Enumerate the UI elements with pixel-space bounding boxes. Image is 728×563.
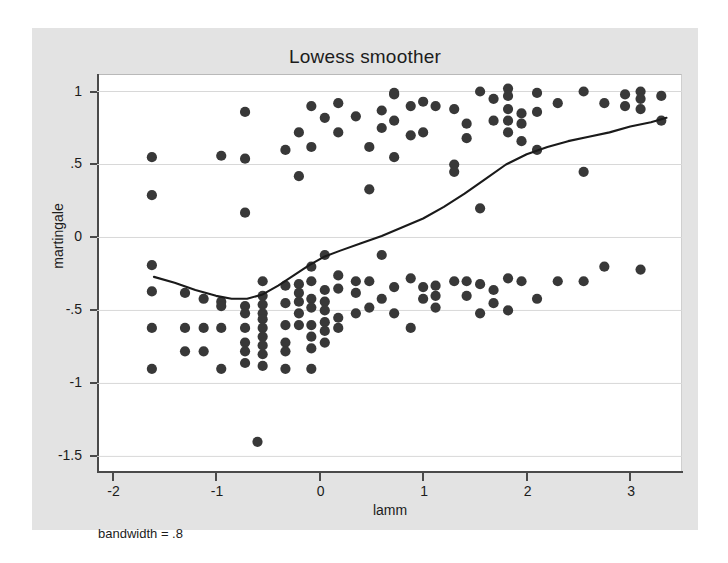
y-tick — [90, 309, 98, 311]
x-tick — [422, 473, 424, 481]
plot-area — [97, 74, 682, 471]
x-tick — [319, 473, 321, 481]
x-axis-label: lamm — [97, 502, 683, 518]
y-tick-label: -1 — [34, 374, 82, 390]
x-tick-label: 3 — [611, 483, 651, 499]
x-axis-line — [97, 471, 683, 473]
y-tick — [90, 163, 98, 165]
y-tick — [90, 455, 98, 457]
x-tick — [526, 473, 528, 481]
x-tick-label: 0 — [301, 483, 341, 499]
x-tick — [215, 473, 217, 481]
x-tick-label: 2 — [508, 483, 548, 499]
x-tick — [629, 473, 631, 481]
y-axis-label: martingale — [50, 166, 66, 306]
x-tick-label: -2 — [94, 483, 134, 499]
y-tick — [90, 91, 98, 93]
graph-canvas: Lowess smoother 1.50-.5-1-1.5 -2-10123 m… — [32, 28, 698, 530]
y-tick — [90, 382, 98, 384]
y-tick-label: 1 — [34, 83, 82, 99]
bandwidth-note: bandwidth = .8 — [98, 526, 183, 541]
y-axis-line — [97, 74, 99, 472]
chart-screenshot: Lowess smoother 1.50-.5-1-1.5 -2-10123 m… — [0, 0, 728, 563]
chart-title: Lowess smoother — [32, 46, 698, 68]
y-tick-label: -1.5 — [34, 447, 82, 463]
x-tick-label: 1 — [404, 483, 444, 499]
x-tick-label: -1 — [197, 483, 237, 499]
y-tick — [90, 236, 98, 238]
x-tick — [112, 473, 114, 481]
